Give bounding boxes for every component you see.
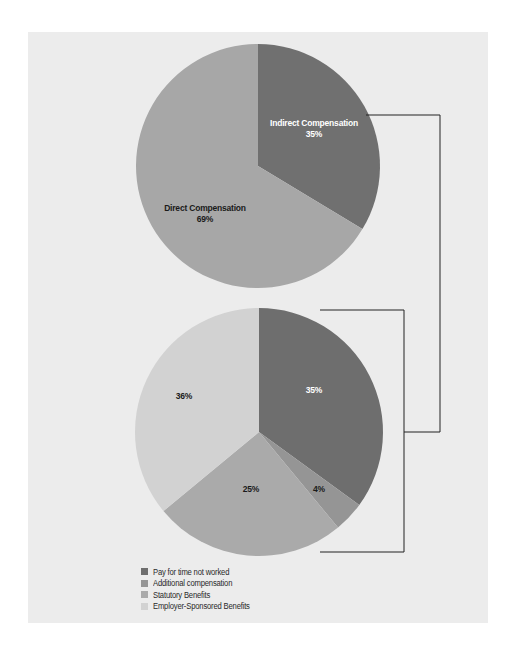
legend-label: Statutory Benefits [153,590,210,600]
legend-swatch [141,603,148,610]
pie-indirect-breakdown: 35%4%25%36% [135,308,383,556]
slice-value: 35% [306,129,323,139]
slice-label-statutory-benefits: 25% [243,484,260,494]
legend-swatch [141,568,148,575]
legend-item: Employer-Sponsored Benefits [141,601,261,613]
slice-name: Indirect Compensation [270,118,358,128]
chart-canvas: Indirect Compensation35%Direct Compensat… [0,0,512,645]
legend-label: Employer-Sponsored Benefits [153,601,250,611]
legend: Pay for time not worked Additional compe… [141,566,261,612]
legend-item: Statutory Benefits [141,589,261,601]
slice-value: 69% [197,214,214,224]
slice-label-employer-sponsored-benefits: 36% [176,391,193,401]
legend-item: Additional compensation [141,578,261,590]
legend-swatch [141,591,148,598]
legend-item: Pay for time not worked [141,566,261,578]
legend-label: Additional compensation [153,578,232,588]
legend-swatch [141,580,148,587]
slice-label-pay-for-time-not-worked: 35% [306,385,323,395]
legend-label: Pay for time not worked [153,567,229,577]
pie-compensation: Indirect Compensation35%Direct Compensat… [136,44,380,288]
slice-label-additional-compensation: 4% [313,484,326,494]
slice-name: Direct Compensation [164,203,246,213]
